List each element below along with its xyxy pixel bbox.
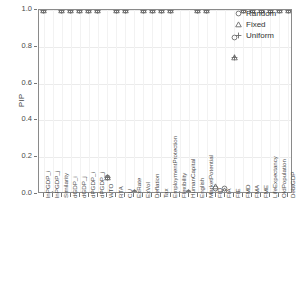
x-axis-tick-label: EmploymentProtection bbox=[172, 136, 178, 198]
y-axis-tick-label: 0.2 bbox=[10, 152, 32, 160]
x-axis-tick-label: ExVol bbox=[145, 182, 151, 198]
x-axis-tick-label: FIE bbox=[235, 188, 241, 198]
x-axis-tick-label: Tax bbox=[163, 188, 169, 198]
gridline-vertical bbox=[71, 10, 72, 192]
x-axis-tick-label: lnPGDP_j bbox=[54, 171, 60, 198]
y-axis-tick-mark bbox=[34, 9, 37, 10]
x-axis-tick-label: FIA bbox=[226, 188, 232, 198]
gridline-horizontal bbox=[39, 84, 291, 85]
gridline-horizontal bbox=[39, 157, 291, 158]
gridline-vertical bbox=[180, 10, 181, 192]
x-axis-tick-labels: lnPGDP_ilnPGDP_jSimilaritydGDP_idGDP_jdP… bbox=[38, 198, 292, 288]
gridline-vertical bbox=[134, 10, 135, 192]
gridline-vertical bbox=[143, 10, 144, 192]
triangle-icon bbox=[232, 20, 244, 30]
gridline-vertical bbox=[161, 10, 162, 192]
gridline-vertical bbox=[80, 10, 81, 192]
x-axis-tick-label: dGDP_j bbox=[81, 176, 87, 198]
gridline-vertical bbox=[53, 10, 54, 192]
legend: RandomFixedUniform bbox=[232, 8, 300, 42]
gridline-vertical bbox=[44, 10, 45, 192]
x-axis-tick-label: Flexibility bbox=[181, 173, 187, 198]
x-axis-tick-label: MarketPotential bbox=[208, 155, 214, 198]
gridline-vertical bbox=[98, 10, 99, 192]
y-axis-tick-mark bbox=[34, 46, 37, 47]
x-axis-tick-label: CU bbox=[127, 189, 133, 198]
y-axis-tick-mark bbox=[34, 156, 37, 157]
x-axis-tick-label: DebtGDP bbox=[290, 172, 296, 198]
x-axis-tick-label: ExRate bbox=[136, 178, 142, 198]
gridline-vertical bbox=[107, 10, 108, 192]
legend-item-uniform[interactable]: Uniform bbox=[232, 30, 300, 41]
x-axis-tick-label: RTA bbox=[118, 186, 124, 198]
y-axis-tick-mark bbox=[34, 193, 37, 194]
x-axis-tick-label: LifeExpectancy bbox=[272, 156, 278, 198]
y-axis-tick-label: 1.0 bbox=[10, 5, 32, 13]
legend-label: Uniform bbox=[244, 31, 274, 40]
gridline-vertical bbox=[152, 10, 153, 192]
gridline-vertical bbox=[116, 10, 117, 192]
x-axis-tick-label: dPGDP_j bbox=[99, 172, 105, 198]
y-axis-tick-label: 0.6 bbox=[10, 79, 32, 87]
gridline-vertical bbox=[198, 10, 199, 192]
x-axis-tick-label: English bbox=[199, 178, 205, 198]
x-axis-tick-label: FMA bbox=[254, 185, 260, 198]
x-axis-tick-label: dPGDP_i bbox=[90, 172, 96, 198]
gridline-vertical bbox=[216, 10, 217, 192]
x-axis-tick-label: Deflation bbox=[154, 174, 160, 198]
y-axis-tick-label: 0.0 bbox=[10, 189, 32, 197]
scatter-chart: PIP 0.00.20.40.60.81.0 lnPGDP_ilnPGDP_jS… bbox=[0, 0, 302, 288]
x-axis-tick-label: lnPGDP_i bbox=[45, 171, 51, 198]
gridline-horizontal bbox=[39, 120, 291, 121]
x-axis-tick-mark bbox=[242, 193, 243, 197]
legend-item-fixed[interactable]: Fixed bbox=[232, 19, 300, 30]
circle-icon bbox=[232, 9, 244, 19]
gridline-vertical bbox=[89, 10, 90, 192]
x-axis-tick-label: FME bbox=[263, 185, 269, 198]
gridline-vertical bbox=[125, 10, 126, 192]
x-axis-tick-label: FMD bbox=[245, 185, 251, 198]
x-axis-tick-label: OldPopulation bbox=[281, 159, 287, 198]
gridline-horizontal bbox=[39, 47, 291, 48]
y-axis-tick-mark bbox=[34, 83, 37, 84]
legend-label: Random bbox=[244, 9, 276, 18]
legend-label: Fixed bbox=[244, 20, 266, 29]
x-axis-tick-label: WTO bbox=[108, 184, 114, 198]
gridline-vertical bbox=[62, 10, 63, 192]
plus-icon bbox=[232, 31, 244, 41]
x-axis-tick-label: HumanCapital bbox=[190, 159, 196, 198]
y-axis-tick-label: 0.8 bbox=[10, 42, 32, 50]
x-axis-tick-mark bbox=[115, 193, 116, 197]
x-axis-tick-label: dGDP_i bbox=[72, 176, 78, 198]
y-axis-tick-label: 0.4 bbox=[10, 115, 32, 123]
legend-item-random[interactable]: Random bbox=[232, 8, 300, 19]
x-axis-tick-label: FID bbox=[217, 188, 223, 198]
y-axis-tick-mark bbox=[34, 119, 37, 120]
y-axis-tick-labels: 0.00.20.40.60.81.0 bbox=[8, 0, 32, 288]
x-axis-tick-label: Similarity bbox=[63, 173, 69, 198]
gridline-vertical bbox=[225, 10, 226, 192]
